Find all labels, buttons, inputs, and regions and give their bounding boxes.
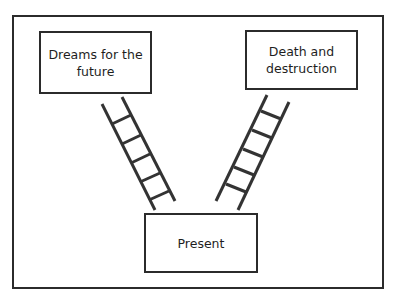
- ladder-to-death: [216, 95, 289, 210]
- ladder-to-future: [102, 97, 175, 210]
- ladders-layer: [0, 0, 398, 304]
